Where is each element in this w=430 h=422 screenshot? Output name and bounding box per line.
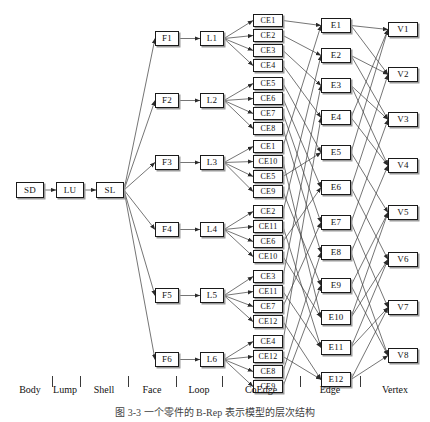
node-vertex-v6: V6 xyxy=(388,252,418,267)
node-lump-lu: LU xyxy=(56,182,84,198)
node-vertex-v2: V2 xyxy=(388,67,418,82)
link-edge-vertex-10-6 xyxy=(351,308,388,348)
link-loop-coedge-0-2 xyxy=(224,39,253,51)
node-edge-e2: E2 xyxy=(321,48,351,63)
node-edge-e11: E11 xyxy=(321,340,351,355)
link-loop-coedge-2-9 xyxy=(224,162,253,163)
node-coedge-4: CE5 xyxy=(253,77,283,90)
node-coedge-16: CE3 xyxy=(253,270,283,283)
axis-tick-4 xyxy=(222,376,223,387)
link-loop-coedge-5-22 xyxy=(224,360,253,372)
node-coedge-18: CE7 xyxy=(253,300,283,313)
link-edge-vertex-0-0 xyxy=(351,26,388,30)
link-edge-vertex-8-7 xyxy=(351,286,388,356)
axis-tick-3 xyxy=(176,376,177,387)
link-loop-coedge-4-17 xyxy=(224,292,253,296)
node-coedge-20: CE4 xyxy=(253,335,283,348)
link-loop-coedge-1-6 xyxy=(224,101,253,114)
link-edge-vertex-7-3 xyxy=(351,166,388,253)
node-edge-e3: E3 xyxy=(321,78,351,93)
node-coedge-0: CE1 xyxy=(253,14,283,27)
node-coedge-5: CE6 xyxy=(253,92,283,105)
link-coedge-edge-21 xyxy=(283,357,321,380)
link-edge-vertex-4-4 xyxy=(351,153,388,213)
link-coedge-edge-8 xyxy=(283,26,321,147)
node-loop-l2: L2 xyxy=(200,93,224,108)
link-coedge-edge-1 xyxy=(283,36,321,56)
node-edge-e10: E10 xyxy=(321,310,351,325)
link-coedge-edge-16 xyxy=(283,86,321,277)
node-coedge-2: CE3 xyxy=(253,44,283,57)
node-coedge-3: CE4 xyxy=(253,59,283,72)
node-coedge-10: CE5 xyxy=(253,170,283,183)
node-loop-l5: L5 xyxy=(200,288,224,303)
link-loop-coedge-4-16 xyxy=(224,277,253,296)
node-shell-sl: SL xyxy=(96,182,124,198)
link-edge-vertex-10-5 xyxy=(351,260,388,348)
node-loop-l3: L3 xyxy=(200,155,224,170)
node-edge-e4: E4 xyxy=(321,110,351,125)
node-coedge-6: CE7 xyxy=(253,107,283,120)
axis-label-body: Body xyxy=(19,384,41,395)
node-coedge-1: CE2 xyxy=(253,29,283,42)
node-coedge-19: CE12 xyxy=(253,315,283,328)
link-edge-vertex-11-7 xyxy=(351,356,388,380)
link-loop-coedge-0-3 xyxy=(224,39,253,66)
axis-label-edge: Edge xyxy=(320,384,341,395)
node-face-f3: F3 xyxy=(155,155,179,170)
axis-tick-6 xyxy=(360,376,361,387)
connector-lines xyxy=(44,21,388,387)
node-face-f4: F4 xyxy=(155,222,179,237)
link-loop-coedge-2-8 xyxy=(224,147,253,163)
node-body-sd: SD xyxy=(16,182,44,198)
link-coedge-edge-5 xyxy=(283,99,321,188)
link-coedge-edge-10 xyxy=(283,153,321,177)
link-loop-coedge-3-14 xyxy=(224,230,253,242)
node-coedge-17: CE11 xyxy=(253,285,283,298)
node-coedge-12: CE2 xyxy=(253,205,283,218)
link-coedge-edge-3 xyxy=(283,66,321,118)
node-vertex-v5: V5 xyxy=(388,205,418,220)
node-coedge-7: CE8 xyxy=(253,122,283,135)
link-shell-face-5 xyxy=(124,190,155,360)
link-edge-vertex-9-4 xyxy=(351,213,388,318)
brep-hierarchy-diagram: SDLUSLF1F2F3F4F5F6L1L2L3L4L5L6CE1CE2CE3C… xyxy=(0,0,430,422)
node-coedge-14: CE6 xyxy=(253,235,283,248)
link-loop-coedge-3-15 xyxy=(224,230,253,257)
figure-caption: 图 3-3 一个零件的 B-Rep 表示模型的层次结构 xyxy=(0,404,430,422)
node-loop-l4: L4 xyxy=(200,222,224,237)
link-edge-vertex-0-1 xyxy=(351,26,388,75)
node-edge-e8: E8 xyxy=(321,245,351,260)
node-face-f1: F1 xyxy=(155,31,179,46)
node-vertex-v1: V1 xyxy=(388,22,418,37)
node-edge-e9: E9 xyxy=(321,278,351,293)
link-shell-face-4 xyxy=(124,190,155,296)
axis-label-lump: Lump xyxy=(53,384,77,395)
link-loop-coedge-2-10 xyxy=(224,163,253,177)
link-edge-vertex-11-6 xyxy=(351,308,388,380)
axis-label-vertex: Vertex xyxy=(382,384,408,395)
axis-label-shell: Shell xyxy=(94,384,115,395)
link-loop-coedge-4-19 xyxy=(224,296,253,322)
link-loop-coedge-4-18 xyxy=(224,296,253,307)
node-coedge-11: CE9 xyxy=(253,185,283,198)
node-coedge-15: CE10 xyxy=(253,250,283,263)
node-edge-e5: E5 xyxy=(321,145,351,160)
node-loop-l1: L1 xyxy=(200,31,224,46)
axis-tick-1 xyxy=(80,376,81,387)
node-vertex-v4: V4 xyxy=(388,158,418,173)
link-coedge-edge-12 xyxy=(283,56,321,212)
node-edge-e1: E1 xyxy=(321,18,351,33)
node-coedge-22: CE8 xyxy=(253,365,283,378)
node-coedge-8: CE1 xyxy=(253,140,283,153)
node-face-f5: F5 xyxy=(155,288,179,303)
node-loop-l6: L6 xyxy=(200,352,224,367)
node-edge-e7: E7 xyxy=(321,215,351,230)
node-face-f2: F2 xyxy=(155,93,179,108)
axis-tick-2 xyxy=(128,376,129,387)
link-loop-coedge-1-7 xyxy=(224,101,253,129)
node-vertex-v8: V8 xyxy=(388,348,418,363)
link-loop-coedge-2-11 xyxy=(224,163,253,192)
link-loop-coedge-1-5 xyxy=(224,99,253,101)
hierarchy-axis: BodyLumpShellFaceLoopCoEdgeEdgeVertex xyxy=(0,378,430,400)
